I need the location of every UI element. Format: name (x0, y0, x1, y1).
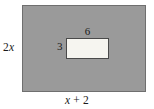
outer-rectangle-width-label: x + 2 (0, 95, 154, 107)
outer-width-constant: 2 (83, 94, 89, 106)
inner-rectangle-height-label: 3 (57, 41, 63, 52)
inner-rectangle-width-label: 6 (66, 26, 109, 37)
outer-width-operator: + (73, 94, 80, 106)
outer-rectangle-height-label: 2x (3, 42, 14, 54)
outer-width-variable: x (65, 94, 70, 106)
geometry-figure: 2x x + 2 6 3 (0, 0, 154, 109)
inner-rectangle (66, 38, 109, 59)
outer-height-variable: x (9, 41, 14, 53)
